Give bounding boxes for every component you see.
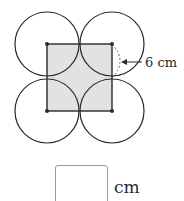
answer-unit-label: cm <box>114 177 140 197</box>
four-circles-square-diagram: 6 cm <box>0 0 184 150</box>
arrowhead-icon <box>121 59 127 65</box>
radius-dimension-arc <box>112 44 120 78</box>
answer-input-box[interactable] <box>55 165 108 201</box>
shaded-square <box>47 44 112 111</box>
dimension-label: 6 cm <box>145 55 177 70</box>
